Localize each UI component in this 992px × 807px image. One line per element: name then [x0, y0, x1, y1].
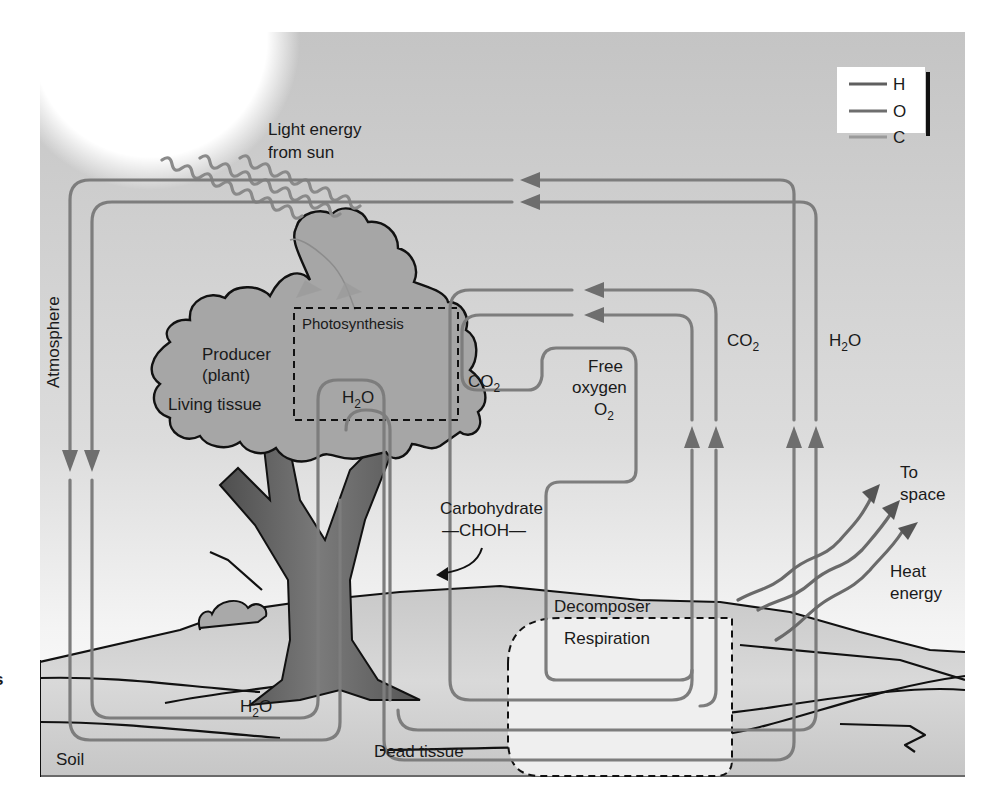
label-energy: energy	[890, 584, 942, 603]
margin-text-fragment: s	[0, 670, 3, 689]
legend-label-h: H	[893, 75, 905, 94]
label-living-tissue: Living tissue	[168, 395, 262, 414]
legend-box	[837, 67, 925, 133]
label-producer: Producer	[202, 345, 271, 364]
legend-label-o: O	[893, 102, 906, 121]
label-decomposer: Decomposer	[554, 597, 651, 616]
label-carbohydrate: Carbohydrate	[440, 499, 543, 518]
label-atmosphere: Atmosphere	[44, 296, 63, 388]
label-respiration: Respiration	[564, 629, 650, 648]
soil-bottom-edge	[40, 775, 965, 778]
label-photosynthesis: Photosynthesis	[302, 315, 404, 332]
label-space: space	[900, 485, 945, 504]
legend-label-c: C	[893, 128, 905, 147]
label-light-energy: Light energy	[268, 120, 362, 139]
label-dead-tissue: Dead tissue	[374, 742, 464, 761]
label-from-sun: from sun	[268, 143, 334, 162]
label-choh: —CHOH—	[442, 521, 526, 540]
label-oxygen: oxygen	[572, 378, 627, 397]
label-heat: Heat	[890, 562, 926, 581]
legend-shadow	[926, 72, 930, 136]
cycle-diagram: H O C Light energy from sun Atmosphere P…	[0, 0, 992, 807]
label-soil: Soil	[56, 750, 84, 769]
label-free: Free	[588, 357, 623, 376]
label-plant: (plant)	[202, 366, 250, 385]
label-to: To	[900, 463, 918, 482]
